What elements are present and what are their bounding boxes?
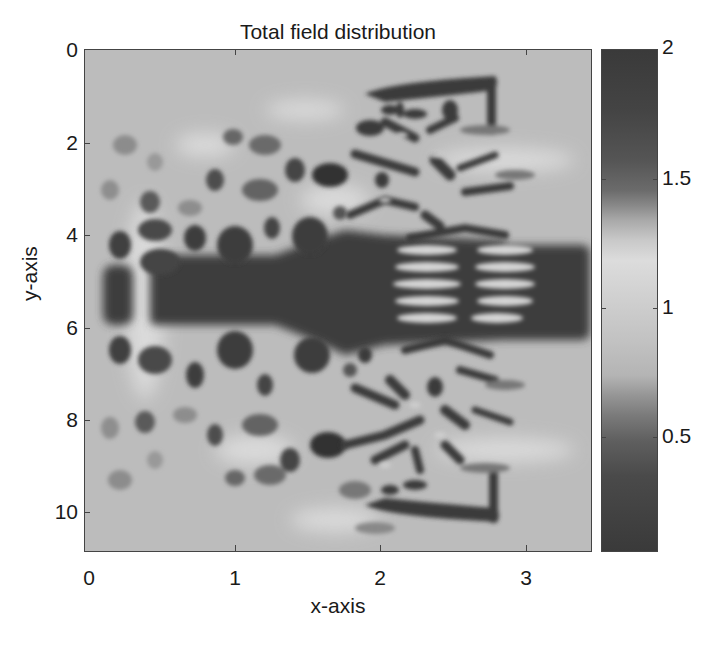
y-tick-label: 4 (28, 223, 78, 247)
colorbar-tick-mark (602, 179, 606, 180)
y-tick-label: 6 (28, 316, 78, 340)
colorbar-tick-mark (653, 437, 657, 438)
y-tick-mark (85, 328, 90, 329)
y-tick-label: 10 (28, 500, 78, 524)
x-tick-mark (235, 545, 236, 551)
x-tick-label: 2 (360, 566, 400, 590)
y-tick-label: 8 (28, 408, 78, 432)
y-tick-mark (85, 420, 90, 421)
colorbar-tick-label: 0.5 (662, 424, 691, 448)
x-tick-label: 1 (215, 566, 255, 590)
heatmap-plot-area (84, 49, 592, 552)
colorbar-tick-mark (602, 308, 606, 309)
x-tick-mark (235, 50, 236, 55)
y-axis-label: y-axis (18, 246, 42, 301)
x-tick-mark (526, 545, 527, 551)
y-tick-mark (85, 512, 90, 513)
colorbar-tick-label: 1.5 (662, 166, 691, 190)
colorbar-tick-label: 2 (662, 35, 674, 59)
x-axis-label: x-axis (0, 594, 676, 618)
colorbar-tick-mark (653, 179, 657, 180)
field-heatmap (85, 50, 592, 552)
y-tick-mark (85, 235, 90, 236)
x-tick-label: 0 (69, 566, 109, 590)
colorbar-tick-label: 1 (662, 295, 674, 319)
colorbar-tick-mark (653, 308, 657, 309)
chart-title: Total field distribution (0, 20, 676, 44)
colorbar (601, 49, 658, 552)
x-tick-label: 3 (506, 566, 546, 590)
colorbar-tick-mark (602, 437, 606, 438)
y-tick-mark (85, 143, 90, 144)
x-tick-mark (526, 50, 527, 55)
x-tick-mark (380, 545, 381, 551)
y-tick-label: 0 (28, 38, 78, 62)
y-tick-label: 2 (28, 131, 78, 155)
